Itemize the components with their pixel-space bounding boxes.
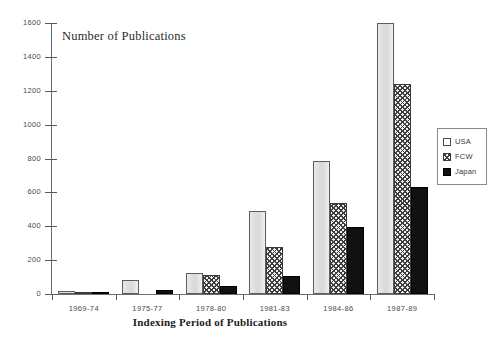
y-tick-label: 600 <box>1 188 41 196</box>
bar-fcw-1981-83 <box>266 247 283 294</box>
legend-item-usa: USA <box>443 134 486 149</box>
legend-swatch-icon <box>443 168 451 176</box>
bar-japan-1987-89 <box>411 187 428 294</box>
legend-item-japan: Japan <box>443 164 486 179</box>
bar-japan-1978-80 <box>220 286 237 294</box>
bar-japan-1975-77 <box>156 290 173 294</box>
x-tick-label: 1987-89 <box>367 305 437 313</box>
bar-usa-1969-74 <box>58 291 75 294</box>
legend-swatch-icon <box>443 153 451 161</box>
bar-fcw-1969-74 <box>75 292 92 294</box>
x-tick-label: 1969-74 <box>49 305 119 313</box>
legend-swatch-icon <box>443 138 451 146</box>
bar-usa-1975-77 <box>122 280 139 294</box>
bar-usa-1984-86 <box>313 161 330 294</box>
y-tick-label: 1200 <box>1 87 41 95</box>
x-tick-label: 1981-83 <box>240 305 310 313</box>
legend-label: FCW <box>455 153 473 161</box>
x-tick-mark <box>307 294 308 300</box>
bar-fcw-1978-80 <box>203 275 220 294</box>
y-tick-label: 0 <box>1 290 41 298</box>
bar-japan-1981-83 <box>283 276 300 294</box>
x-tick-mark <box>243 294 244 300</box>
x-tick-mark <box>52 294 53 300</box>
plot-area <box>52 23 434 294</box>
legend-label: Japan <box>455 168 476 176</box>
bar-usa-1978-80 <box>186 273 203 294</box>
x-tick-mark <box>434 294 435 300</box>
legend-item-fcw: FCW <box>443 149 486 164</box>
y-tick-label: 400 <box>1 222 41 230</box>
y-tick-label: 1400 <box>1 53 41 61</box>
bar-fcw-1984-86 <box>330 203 347 294</box>
x-tick-label: 1984-86 <box>304 305 374 313</box>
x-tick-mark <box>179 294 180 300</box>
legend-label: USA <box>455 138 471 146</box>
x-axis-title: Indexing Period of Publications <box>0 316 420 328</box>
x-tick-mark <box>370 294 371 300</box>
y-tick-label: 800 <box>1 155 41 163</box>
y-tick-label: 200 <box>1 256 41 264</box>
bar-usa-1981-83 <box>249 211 266 294</box>
x-tick-mark <box>116 294 117 300</box>
bar-japan-1984-86 <box>347 227 364 294</box>
x-tick-label: 1978-80 <box>176 305 246 313</box>
chart-legend: USAFCWJapan <box>437 128 487 185</box>
bar-chart: Number of Publications 02004006008001000… <box>0 0 496 345</box>
y-tick-mark <box>45 294 57 295</box>
y-tick-label: 1600 <box>1 19 41 27</box>
bar-fcw-1987-89 <box>394 84 411 294</box>
y-tick-label: 1000 <box>1 121 41 129</box>
bar-japan-1969-74 <box>92 292 109 294</box>
x-tick-label: 1975-77 <box>113 305 183 313</box>
bar-usa-1987-89 <box>377 23 394 294</box>
